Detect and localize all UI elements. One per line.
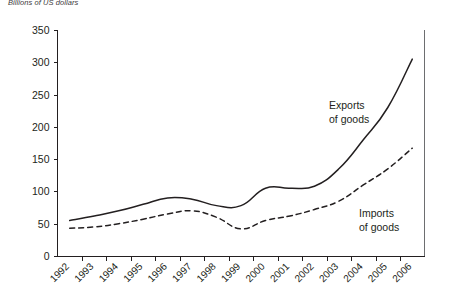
x-tick-label: 2005 bbox=[366, 260, 390, 284]
x-tick-label: 2000 bbox=[243, 260, 267, 284]
series-line-exports bbox=[70, 59, 413, 220]
y-tick-label: 250 bbox=[32, 89, 50, 101]
series-label-exports-line2: of goods bbox=[329, 113, 369, 125]
x-tick-label: 2001 bbox=[268, 260, 292, 284]
x-tick-label: 1999 bbox=[219, 260, 243, 284]
x-tick-label: 2004 bbox=[341, 260, 365, 284]
x-tick-label: 1996 bbox=[146, 260, 170, 284]
x-tick-label: 2006 bbox=[390, 260, 414, 284]
y-tick-label: 200 bbox=[32, 121, 50, 133]
x-tick-label: 1992 bbox=[48, 260, 72, 284]
y-tick-label: 350 bbox=[32, 24, 50, 36]
chart-figure: Billions of US dollars 05010015020025030… bbox=[0, 0, 449, 296]
series-label-imports-line2: of goods bbox=[359, 221, 399, 233]
series-label-imports-line1: Imports bbox=[359, 207, 394, 219]
y-tick-label: 100 bbox=[32, 185, 50, 197]
series-label-exports-line1: Exports bbox=[329, 99, 365, 111]
x-tick-label: 1993 bbox=[72, 260, 96, 284]
y-axis-ticks: 050100150200250300350 bbox=[32, 24, 58, 262]
x-axis-ticks: 1992199319941995199619971998199920002001… bbox=[48, 256, 414, 284]
x-tick-label: 1994 bbox=[97, 260, 121, 284]
y-tick-label: 300 bbox=[32, 56, 50, 68]
x-tick-label: 1998 bbox=[194, 260, 218, 284]
x-tick-label: 2003 bbox=[317, 260, 341, 284]
line-chart-plot: 050100150200250300350 199219931994199519… bbox=[0, 0, 449, 296]
x-tick-label: 2002 bbox=[292, 260, 316, 284]
y-tick-label: 50 bbox=[38, 218, 50, 230]
x-tick-label: 1995 bbox=[121, 260, 145, 284]
y-tick-label: 150 bbox=[32, 153, 50, 165]
y-tick-label: 0 bbox=[44, 250, 50, 262]
x-tick-label: 1997 bbox=[170, 260, 194, 284]
